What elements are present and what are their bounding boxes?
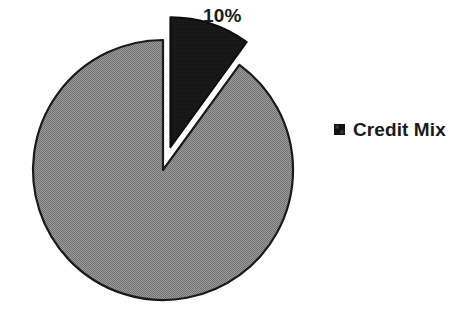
pie-chart: 10% Credit Mix bbox=[0, 0, 469, 314]
pie-slice-other bbox=[33, 40, 293, 300]
pie-chart-graphic bbox=[0, 0, 469, 314]
legend-item-credit-mix[interactable]: Credit Mix bbox=[334, 120, 446, 139]
legend-label-credit-mix: Credit Mix bbox=[353, 120, 446, 139]
chart-legend: Credit Mix bbox=[334, 120, 446, 139]
legend-swatch-icon bbox=[334, 124, 345, 135]
slice-label-credit-mix: 10% bbox=[203, 6, 242, 25]
